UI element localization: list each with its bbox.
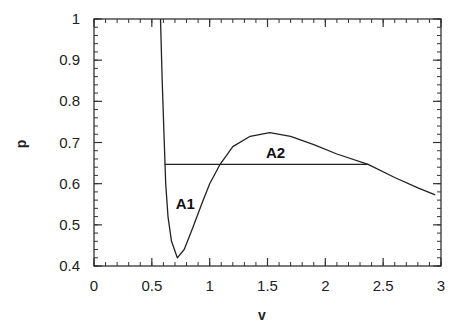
major-ticks <box>94 19 441 266</box>
x-tick-label: 2.5 <box>373 277 394 294</box>
x-tick-label: 1.5 <box>257 277 278 294</box>
x-tick-label: 2 <box>321 277 329 294</box>
y-tick-label: 0.6 <box>59 175 80 192</box>
x-axis-label: v <box>258 307 266 323</box>
x-tick-label: 0.5 <box>141 277 162 294</box>
y-tick-label: 0.4 <box>59 257 80 274</box>
isotherm-curve <box>161 19 436 258</box>
annotation-a1: A1 <box>176 195 195 212</box>
pv-chart: 00.511.522.53 0.40.50.60.70.80.91 A1 A2 … <box>0 0 463 329</box>
minor-ticks <box>94 19 441 266</box>
y-tick-label: 0.7 <box>59 134 80 151</box>
x-tick-label: 3 <box>437 277 445 294</box>
y-tick-label: 1 <box>72 10 80 27</box>
y-tick-label: 0.8 <box>59 92 80 109</box>
x-tick-label: 1 <box>205 277 213 294</box>
x-tick-labels: 00.511.522.53 <box>90 277 445 294</box>
y-axis-label: p <box>13 140 29 149</box>
plot-frame <box>94 19 441 266</box>
y-tick-label: 0.5 <box>59 216 80 233</box>
x-tick-label: 0 <box>90 277 98 294</box>
annotation-a2: A2 <box>266 144 285 161</box>
y-tick-labels: 0.40.50.60.70.80.91 <box>59 10 80 274</box>
y-tick-label: 0.9 <box>59 51 80 68</box>
